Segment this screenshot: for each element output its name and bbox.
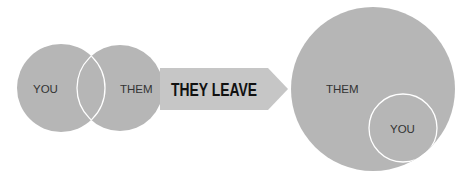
them-label: THEM — [120, 83, 153, 95]
arrow-label: THEY LEAVE — [171, 80, 257, 100]
you-small-label: YOU — [390, 123, 415, 135]
transition-arrow: THEY LEAVE — [160, 68, 288, 110]
venn-transition-diagram: YOU THEM THEY LEAVE THEM YOU — [0, 0, 473, 181]
after-venn: THEM YOU — [291, 7, 455, 171]
you-label: YOU — [33, 83, 58, 95]
before-venn: YOU THEM — [17, 44, 163, 132]
them-big-label: THEM — [326, 83, 359, 95]
